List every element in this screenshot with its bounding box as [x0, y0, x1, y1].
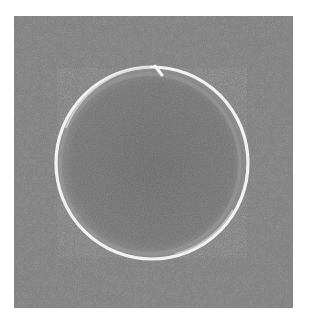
petri-dish-photo	[14, 16, 293, 308]
photo-background	[14, 16, 293, 308]
